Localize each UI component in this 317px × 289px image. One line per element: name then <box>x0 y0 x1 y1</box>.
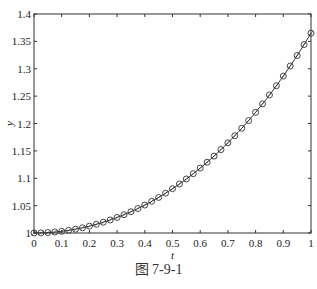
data-marker-slash <box>164 191 168 195</box>
plot-frame <box>34 14 311 233</box>
y-tick-label: 1.15 <box>12 145 32 157</box>
data-marker-slash <box>219 148 223 152</box>
data-marker-slash <box>177 182 181 186</box>
x-tick-label: 0.6 <box>193 237 207 249</box>
data-marker-slash <box>274 84 278 88</box>
data-marker-slash <box>171 187 175 191</box>
y-tick-label: 1.3 <box>17 63 31 75</box>
y-tick-label: 1 <box>26 227 32 239</box>
x-tick-label: 0.1 <box>55 237 69 249</box>
x-tick-label: 0.7 <box>221 237 235 249</box>
y-tick-label: 1.25 <box>12 90 32 102</box>
data-marker-slash <box>184 177 188 181</box>
y-axis-label: y <box>3 121 15 127</box>
data-marker-slash <box>295 53 299 57</box>
x-tick-label: 0.2 <box>83 237 97 249</box>
x-tick-label: 0.3 <box>110 237 124 249</box>
data-marker-slash <box>261 102 265 106</box>
data-marker-slash <box>226 141 230 145</box>
data-marker-slash <box>212 154 216 158</box>
data-marker-slash <box>191 172 195 176</box>
data-marker-slash <box>288 64 292 68</box>
data-marker-slash <box>129 210 133 214</box>
data-marker-slash <box>281 74 285 78</box>
data-marker-slash <box>122 213 126 217</box>
data-marker-slash <box>143 203 147 207</box>
data-marker-slash <box>302 43 306 47</box>
x-tick-label: 0.5 <box>166 237 180 249</box>
y-tick-label: 1.4 <box>17 8 31 20</box>
data-marker-slash <box>240 126 244 130</box>
x-tick-label: 0.9 <box>276 237 290 249</box>
data-marker-slash <box>150 199 154 203</box>
y-tick-label: 1.05 <box>12 200 32 212</box>
figure-caption: 图 7-9-1 <box>0 258 317 278</box>
y-tick-label: 1.35 <box>12 35 32 47</box>
data-marker-slash <box>157 195 161 199</box>
x-tick-label: 0.8 <box>249 237 263 249</box>
data-marker-slash <box>254 110 258 114</box>
y-tick-label: 1.2 <box>17 118 31 130</box>
data-marker-slash <box>233 134 237 138</box>
x-tick-label: 0 <box>31 237 37 249</box>
data-marker-slash <box>136 207 140 211</box>
data-marker-slash <box>198 166 202 170</box>
x-tick-label: 0.4 <box>138 237 152 249</box>
data-line <box>34 33 311 233</box>
line-chart: 00.10.20.30.40.50.60.70.80.9111.051.11.1… <box>0 0 317 289</box>
data-marker-slash <box>247 118 251 122</box>
x-tick-label: 1 <box>308 237 314 249</box>
data-marker-slash <box>267 93 271 97</box>
y-tick-label: 1.1 <box>17 172 31 184</box>
data-marker-slash <box>205 160 209 164</box>
